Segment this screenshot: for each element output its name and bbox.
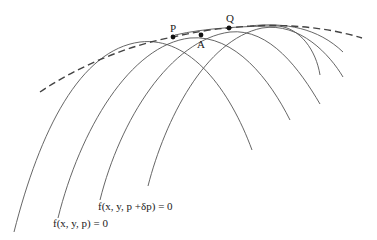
equation-curve-p-dp: f(x, y, p +δp) = 0 <box>98 200 173 213</box>
label-p: P <box>170 22 176 34</box>
family-curve-3 <box>100 32 320 200</box>
point-q <box>227 26 232 31</box>
family-curve-4 <box>148 27 343 186</box>
point-a <box>199 33 204 38</box>
point-p <box>171 35 176 40</box>
envelope-diagram: P A Q f(x, y, p +δp) = 0 f(x, y, p) = 0 <box>0 0 377 240</box>
label-a: A <box>197 38 205 50</box>
family-curve-2 <box>58 38 290 218</box>
label-q: Q <box>226 12 234 24</box>
family-curve-6 <box>250 25 343 52</box>
equation-curve-p: f(x, y, p) = 0 <box>53 217 108 230</box>
